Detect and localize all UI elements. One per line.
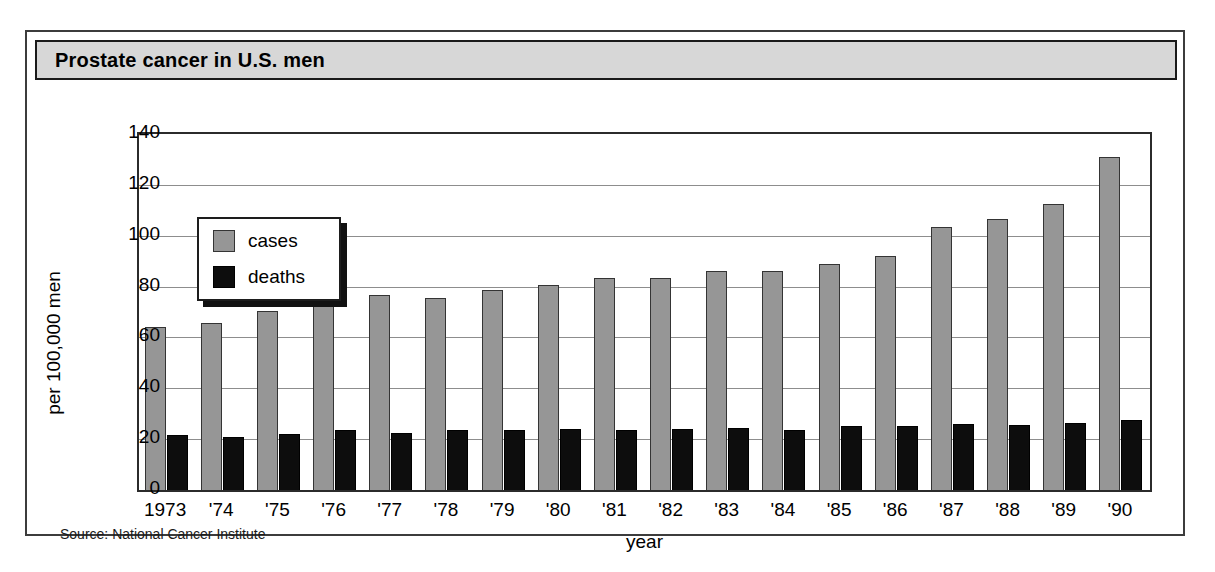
bar-deaths: [1065, 423, 1086, 490]
x-axis-label: year: [137, 531, 1152, 553]
bar-deaths: [1121, 420, 1142, 490]
x-tick-label: '78: [434, 499, 459, 521]
bar-deaths: [953, 424, 974, 490]
x-tick-label: '81: [602, 499, 627, 521]
chart-region: per 100,000 men 020406080100120140 1973'…: [27, 87, 1183, 534]
bar-cases: [482, 290, 503, 490]
bar-cases: [762, 271, 783, 490]
x-tick-label: '82: [658, 499, 683, 521]
bar-deaths: [1009, 425, 1030, 490]
legend-label-deaths: deaths: [248, 266, 305, 288]
source-note: Source: National Cancer Institute: [60, 526, 265, 542]
bar-deaths: [335, 430, 356, 490]
y-tick-label: 80: [40, 274, 160, 296]
bar-deaths: [841, 426, 862, 490]
bar-cases: [145, 327, 166, 490]
bar-cases: [931, 227, 952, 490]
bar-deaths: [728, 428, 749, 490]
bar-deaths: [616, 430, 637, 490]
x-tick-label: '87: [939, 499, 964, 521]
bars-layer: [139, 134, 1150, 490]
y-tick-label: 140: [40, 121, 160, 143]
bar-deaths: [672, 429, 693, 490]
bar-cases: [313, 302, 334, 490]
chart-legend: cases deaths: [197, 217, 341, 301]
x-tick-label: '80: [546, 499, 571, 521]
figure-frame: Prostate cancer in U.S. men per 100,000 …: [25, 30, 1185, 536]
bar-deaths: [447, 430, 468, 490]
bar-deaths: [784, 430, 805, 490]
y-tick-label: 0: [40, 477, 160, 499]
bar-cases: [706, 271, 727, 490]
x-tick-label: '84: [771, 499, 796, 521]
bar-cases: [594, 278, 615, 490]
x-tick-label: '90: [1108, 499, 1133, 521]
x-tick-label: '75: [265, 499, 290, 521]
bar-deaths: [897, 426, 918, 490]
x-tick-label: '86: [883, 499, 908, 521]
bar-cases: [425, 298, 446, 490]
x-tick-label: 1973: [144, 499, 186, 521]
plot-area: [137, 132, 1152, 492]
x-tick-label: '88: [995, 499, 1020, 521]
bar-cases: [257, 311, 278, 490]
bar-deaths: [391, 433, 412, 490]
bar-cases: [650, 278, 671, 490]
bar-deaths: [279, 434, 300, 490]
bar-cases: [538, 285, 559, 490]
bar-deaths: [167, 435, 188, 490]
page-title: Prostate cancer in U.S. men: [37, 49, 325, 72]
chart-title-bar: Prostate cancer in U.S. men: [35, 40, 1177, 80]
x-tick-label: '77: [377, 499, 402, 521]
legend-label-cases: cases: [248, 230, 298, 252]
x-tick-label: '79: [490, 499, 515, 521]
bar-cases: [1099, 157, 1120, 490]
bar-cases: [875, 256, 896, 490]
legend-item-deaths: deaths: [213, 264, 305, 290]
bar-deaths: [223, 437, 244, 490]
plot-inner: [139, 134, 1150, 490]
y-tick-label: 40: [40, 375, 160, 397]
bar-cases: [369, 295, 390, 490]
x-tick-label: '74: [209, 499, 234, 521]
x-tick-label: '76: [321, 499, 346, 521]
x-tick-label: '83: [714, 499, 739, 521]
x-tick-label: '85: [827, 499, 852, 521]
bar-deaths: [504, 430, 525, 490]
y-tick-label: 20: [40, 426, 160, 448]
bar-cases: [987, 219, 1008, 490]
x-tick-label: '89: [1051, 499, 1076, 521]
y-tick-label: 100: [40, 223, 160, 245]
bar-cases: [1043, 204, 1064, 490]
bar-deaths: [560, 429, 581, 490]
legend-item-cases: cases: [213, 228, 298, 254]
bar-cases: [201, 323, 222, 490]
y-tick-label: 120: [40, 172, 160, 194]
bar-cases: [819, 264, 840, 490]
legend-swatch-cases-icon: [213, 230, 235, 252]
y-tick-label: 60: [40, 324, 160, 346]
legend-swatch-deaths-icon: [213, 266, 235, 288]
